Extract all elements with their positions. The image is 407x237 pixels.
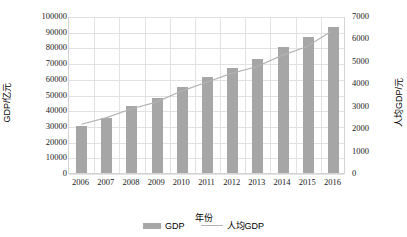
legend-item-gdp: GDP <box>143 221 185 231</box>
chart-legend: GDP 人均GDP <box>0 219 407 232</box>
y-axis-left-tick-label: 30000 <box>7 122 67 131</box>
y-axis-left-tick-label: 40000 <box>7 106 67 115</box>
legend-label-gdp: GDP <box>165 221 185 231</box>
y-axis-left-tick-label: 10000 <box>7 153 67 162</box>
line-path <box>81 31 331 124</box>
y-axis-left-tick-label: 100000 <box>7 12 67 21</box>
y-axis-right-tick-label: 5000 <box>352 57 392 66</box>
y-axis-right-tick-label: 7000 <box>352 12 392 21</box>
plot-area <box>68 17 345 174</box>
legend-item-per-capita-gdp: 人均GDP <box>201 219 265 232</box>
y-axis-right-tick-label: 4000 <box>352 79 392 88</box>
y-axis-right-title: 人均GDP/元 <box>392 66 405 140</box>
y-axis-right-tick-label: 1000 <box>352 147 392 156</box>
y-axis-right-tick-label: 0 <box>352 169 392 178</box>
x-axis-tick-label: 2016 <box>317 178 347 187</box>
y-axis-left-tick-label: 80000 <box>7 43 67 52</box>
y-axis-right-tick-label: 2000 <box>352 124 392 133</box>
y-axis-left-tick-label: 90000 <box>7 28 67 37</box>
y-axis-left-tick-label: 20000 <box>7 138 67 147</box>
y-axis-right-tick-label: 6000 <box>352 34 392 43</box>
legend-line-swatch-icon <box>201 225 223 226</box>
y-axis-left-tick-label: 60000 <box>7 75 67 84</box>
y-axis-left-tick-label: 0 <box>7 169 67 178</box>
line-series-per-capita-gdp <box>69 18 344 173</box>
y-axis-left-tick-label: 70000 <box>7 59 67 68</box>
y-axis-right-tick-label: 3000 <box>352 102 392 111</box>
legend-bar-swatch-icon <box>143 223 161 229</box>
y-axis-left-tick-label: 50000 <box>7 91 67 100</box>
chart-container: GDP/亿元 人均GDP/元 年份 0100002000030000400005… <box>0 0 407 237</box>
gridline-horizontal <box>69 174 344 175</box>
legend-label-per-capita-gdp: 人均GDP <box>227 219 265 232</box>
